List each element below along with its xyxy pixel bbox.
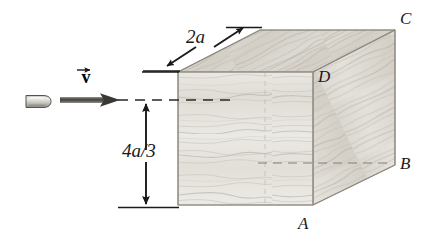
- physics-figure: C D B A 2a 4a/3 v: [0, 0, 433, 240]
- bullet-icon: [26, 96, 51, 108]
- wooden-block: [178, 30, 395, 205]
- vector-overbar-arrow-icon: [76, 60, 96, 69]
- block-front-face: [178, 72, 313, 205]
- width-dimension-label: 2a: [186, 27, 205, 46]
- corner-label-b: B: [400, 155, 410, 172]
- velocity-arrow: [60, 93, 120, 107]
- height-dimension-label: 4a/3: [122, 141, 156, 160]
- corner-label-a: A: [298, 215, 308, 232]
- figure-canvas: [0, 0, 433, 240]
- corner-label-d: D: [318, 68, 330, 85]
- width-arrow-down-left: [167, 47, 196, 66]
- corner-label-c: C: [400, 10, 411, 27]
- velocity-label: v: [76, 60, 96, 88]
